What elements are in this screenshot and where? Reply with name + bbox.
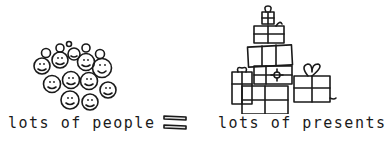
lots-of-presents-label: lots of presents (218, 114, 387, 132)
stack-of-gift-boxes-icon (230, 2, 360, 114)
lots-of-people-label: lots of people (8, 114, 155, 132)
equals-sign-icon (162, 114, 190, 132)
smiley-faces-crowd-icon (30, 38, 125, 114)
